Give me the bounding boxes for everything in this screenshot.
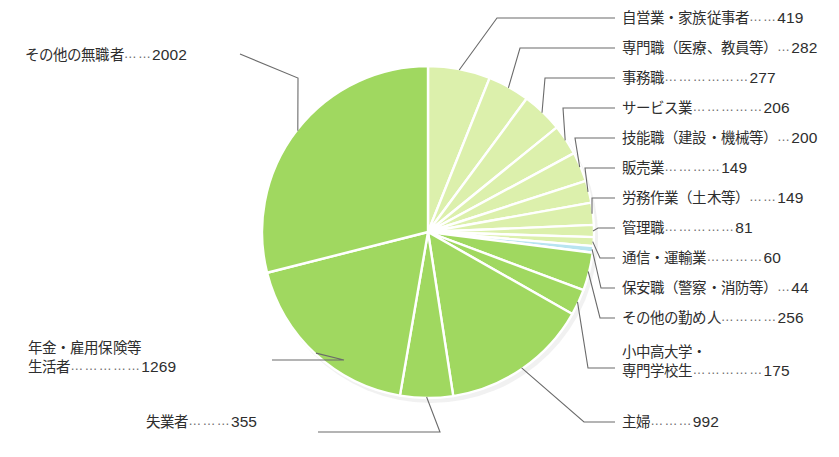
label-dots: …… — [124, 45, 152, 62]
label-dots: … — [777, 128, 791, 145]
leader-line — [240, 54, 298, 131]
label-value: 200 — [791, 129, 817, 146]
label-student: 小中高大学・ 専門学校生……………175 — [622, 344, 790, 380]
label-name: 自営業・家族従事者 — [622, 10, 749, 27]
label-value: 81 — [735, 219, 752, 236]
label-value: 419 — [777, 9, 803, 26]
label-management: 管理職……………81 — [622, 218, 753, 237]
label-service: サービス業……………206 — [622, 98, 790, 117]
label-name: 専門職（医療、教員等） — [622, 40, 777, 57]
label-value: 149 — [721, 159, 747, 176]
label-value: 355 — [231, 413, 257, 430]
label-value: 149 — [777, 189, 803, 206]
label-name: 技能職（建設・機械等） — [622, 130, 777, 147]
label-name-line2-row: 生活者……………1269 — [28, 357, 176, 376]
label-sales: 販売業…………149 — [622, 158, 747, 177]
label-other-jobless: その他の無職者……2002 — [25, 45, 187, 64]
label-name-line2: 生活者 — [28, 359, 70, 376]
label-dots: … — [777, 38, 791, 55]
label-dots: …………… — [693, 98, 764, 115]
label-dots: …… — [749, 188, 777, 205]
label-value: 282 — [791, 39, 817, 56]
leader-line — [578, 302, 616, 368]
label-self-employed: 自営業・家族従事者……419 — [622, 8, 803, 27]
label-name: 通信・運輸業 — [622, 250, 707, 267]
pie-slices — [262, 66, 594, 398]
label-name: その他の勤め人 — [622, 310, 721, 327]
label-housewife: 主婦………992 — [622, 412, 719, 431]
label-security: 保安職（警察・消防等）…44 — [622, 278, 809, 297]
label-value: 256 — [778, 309, 804, 326]
label-value: 44 — [791, 279, 808, 296]
label-value: 2002 — [152, 46, 187, 63]
label-name: 主婦 — [622, 414, 650, 431]
label-dots: …………… — [664, 218, 735, 235]
label-dots: ………… — [664, 158, 721, 175]
label-value: 60 — [763, 249, 780, 266]
label-value: 1269 — [141, 358, 176, 375]
label-dots: ………… — [721, 308, 778, 325]
chart-canvas: 自営業・家族従事者……419 専門職（医療、教員等）…282 事務職………………… — [0, 0, 839, 457]
label-name-line2-row: 専門学校生……………175 — [622, 361, 790, 380]
label-dots: ……… — [650, 412, 693, 429]
leader-line — [508, 48, 615, 88]
label-name-line1: 小中高大学・ — [622, 344, 790, 361]
label-value: 175 — [764, 362, 790, 379]
label-name: サービス業 — [622, 100, 693, 117]
label-name: 失業者 — [146, 414, 188, 431]
leader-line — [563, 108, 615, 140]
label-dots: ………… — [707, 248, 764, 265]
label-value: 206 — [764, 99, 790, 116]
leader-line — [459, 18, 615, 70]
label-clerical: 事務職………………277 — [622, 68, 776, 87]
label-name: 労務作業（土木等） — [622, 190, 749, 207]
label-pension-recipient: 年金・雇用保険等 生活者……………1269 — [28, 340, 176, 376]
label-dots: ……… — [188, 412, 231, 429]
label-dots: … — [777, 278, 791, 295]
label-value: 992 — [693, 413, 719, 430]
label-name: 保安職（警察・消防等） — [622, 280, 777, 297]
label-professional: 専門職（医療、教員等）…282 — [622, 38, 817, 57]
label-unemployed: 失業者………355 — [146, 412, 257, 431]
label-dots: …… — [749, 8, 777, 25]
label-name: 管理職 — [622, 220, 664, 237]
label-name: 販売業 — [622, 160, 664, 177]
label-dots: ……………… — [664, 68, 749, 85]
label-value: 277 — [750, 69, 776, 86]
label-name: 事務職 — [622, 70, 664, 87]
leader-line — [522, 368, 615, 422]
label-name-line1: 年金・雇用保険等 — [28, 340, 176, 357]
label-manual-labor: 労務作業（土木等）……149 — [622, 188, 803, 207]
label-skilled-trade: 技能職（建設・機械等）…200 — [622, 128, 817, 147]
label-name-line2: 専門学校生 — [622, 363, 693, 380]
label-dots: …………… — [70, 357, 141, 374]
label-name: その他の無職者 — [25, 47, 124, 64]
label-other-employee: その他の勤め人…………256 — [622, 308, 804, 327]
label-transport-comm: 通信・運輸業…………60 — [622, 248, 781, 267]
label-dots: …………… — [693, 361, 764, 378]
